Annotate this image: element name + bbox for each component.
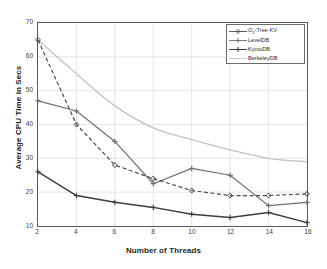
legend-label-leveldb: LevelDB <box>247 38 269 44</box>
legend-item-kyotodb: KyotoDB <box>229 45 302 54</box>
legend-item-o2-tree-kv: O2-Tree KV <box>229 27 302 36</box>
y-tick-label: 40 <box>26 121 33 128</box>
legend-item-leveldb: LevelDB <box>229 36 302 45</box>
x-axis-tick-labels: 2 4 6 8 10 12 14 16 <box>0 229 327 243</box>
chart-figure: 70 60 50 40 30 20 10 2 4 6 8 10 12 14 16… <box>0 0 327 269</box>
y-tick-label: 60 <box>26 53 33 60</box>
legend-label-kyotodb: KyotoDB <box>247 47 270 53</box>
x-tick-label: 2 <box>35 229 39 236</box>
x-tick-label: 8 <box>151 229 155 236</box>
x-tick-label: 14 <box>266 229 273 236</box>
y-tick-label: 30 <box>26 155 33 162</box>
legend-swatch-berkeleydb <box>229 54 247 63</box>
x-tick-label: 12 <box>227 229 234 236</box>
legend-label-o2-tree-kv: O2-Tree KV <box>247 28 277 35</box>
legend-label-berkeleydb: BerkeleyDB <box>247 56 278 62</box>
x-tick-label: 16 <box>304 229 311 236</box>
y-axis-title: Average CPU Time in Secs <box>14 43 23 193</box>
legend-swatch-o2-tree-kv <box>229 27 247 36</box>
x-tick-label: 6 <box>113 229 117 236</box>
legend-swatch-kyotodb <box>229 45 247 54</box>
y-tick-label: 20 <box>26 189 33 196</box>
x-axis-title: Number of Threads <box>0 246 327 255</box>
x-tick-label: 10 <box>188 229 195 236</box>
legend-swatch-leveldb <box>229 36 247 45</box>
y-tick-label: 50 <box>26 87 33 94</box>
x-tick-label: 4 <box>74 229 78 236</box>
legend-item-berkeleydb: BerkeleyDB <box>229 54 302 63</box>
y-tick-label: 70 <box>26 19 33 26</box>
chart-legend: O2-Tree KV LevelDB KyotoDB <box>226 24 305 64</box>
